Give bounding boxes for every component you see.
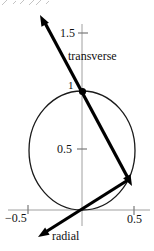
x-tick-label-pos-0-5: 0.5	[127, 213, 142, 225]
y-tick-label-0-5: 0.5	[57, 143, 72, 155]
radial-label: radial	[52, 230, 79, 242]
x-tick-label-neg-0-5: −0.5	[5, 212, 27, 224]
transverse-label: transverse	[68, 50, 117, 62]
y-tick-label-1: 1	[68, 80, 74, 91]
y-tick-label-1-5: 1.5	[60, 27, 75, 39]
polar-vector-figure: 1.5 transverse 1 0.5 −0.5 0.5 radial	[0, 0, 154, 251]
cropped-formula-fragment	[2, 0, 49, 5]
point-marker	[79, 88, 86, 95]
